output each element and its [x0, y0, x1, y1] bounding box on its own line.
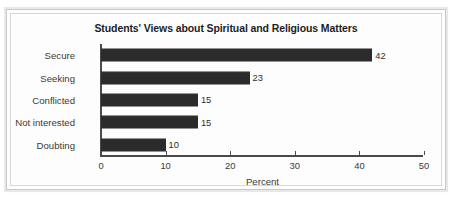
x-tick-mark	[166, 151, 167, 155]
x-tick-mark	[101, 151, 102, 155]
x-tick-label: 0	[98, 160, 103, 171]
x-tick-mark	[424, 151, 425, 155]
bar-value-label: 42	[375, 50, 385, 60]
bar-row: Conflicted15	[11, 89, 441, 111]
plot-area: Secure42Seeking23Conflicted15Not interes…	[11, 44, 441, 184]
category-label: Secure	[45, 50, 75, 61]
bar-container: 42	[101, 49, 386, 62]
bar-row: Secure42	[11, 44, 441, 66]
bar	[101, 116, 198, 129]
x-tick-mark	[230, 151, 231, 155]
bar-series: Secure42Seeking23Conflicted15Not interes…	[11, 44, 441, 156]
chart-title: Students' Views about Spiritual and Reli…	[11, 22, 441, 34]
x-tick-label: 50	[419, 160, 429, 171]
x-tick-label: 40	[354, 160, 364, 171]
category-label: Seeking	[40, 72, 75, 83]
x-tick-label: 10	[160, 160, 170, 171]
bar	[101, 49, 372, 62]
bar-container: 15	[101, 93, 211, 106]
bar-container: 15	[101, 116, 211, 129]
bar	[101, 71, 250, 84]
category-label: Conflicted	[32, 94, 75, 105]
bar-row: Not interested15	[11, 111, 441, 133]
bar-container: 23	[101, 71, 263, 84]
x-axis-title: Percent	[101, 176, 424, 187]
bar	[101, 93, 198, 106]
x-tick-label: 20	[225, 160, 235, 171]
bar	[101, 138, 166, 151]
bar-value-label: 15	[201, 117, 211, 127]
bar-value-label: 10	[169, 140, 179, 150]
x-tick-mark	[359, 151, 360, 155]
figure-frame: Students' Views about Spiritual and Reli…	[6, 9, 446, 190]
bar-row: Doubting10	[11, 134, 441, 156]
x-tick-mark	[295, 151, 296, 155]
bar-row: Seeking23	[11, 66, 441, 88]
bar-value-label: 23	[253, 73, 263, 83]
category-label: Not interested	[15, 117, 75, 128]
category-label: Doubting	[37, 139, 75, 150]
bar-container: 10	[101, 138, 179, 151]
figure-inner-panel: Students' Views about Spiritual and Reli…	[10, 13, 442, 186]
x-tick-label: 30	[290, 160, 300, 171]
bar-value-label: 15	[201, 95, 211, 105]
x-axis-ticks: Percent 01020304050	[11, 155, 441, 185]
